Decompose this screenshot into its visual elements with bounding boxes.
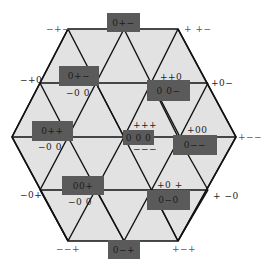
state-box-right: 0−− (173, 135, 217, 155)
state-box-left: 0++ (32, 121, 73, 141)
label-top-right-vertex: + +− (184, 24, 211, 34)
state-box-bottom: 0−+ (108, 240, 140, 259)
state-box-lower-left: 00+ (62, 176, 104, 195)
label-lower-right-above: +0 + (157, 180, 183, 190)
state-box-center: 0 0 0 (123, 130, 154, 145)
label-right-above: +00 (187, 125, 208, 135)
label-upper-left-vertex: −+0 (20, 75, 42, 85)
label-upper-left-below: −0 0 (66, 88, 90, 98)
label-top-left-vertex: −+− (46, 24, 70, 34)
state-box-lower-right: 0−0 (147, 190, 190, 210)
state-box-upper-right: 0 0− (147, 80, 190, 101)
label-lower-left-vertex: −0+ (20, 190, 42, 200)
state-box-top: 0+− (107, 13, 140, 32)
state-box-upper-left: 0+− (59, 66, 99, 86)
label-lower-right-vertex: + −0 (213, 191, 239, 201)
label-lower-left-below: −0 0 (68, 197, 92, 207)
label-left-below: −0 0 (38, 142, 62, 152)
label-center-below: −−− (133, 144, 157, 154)
label-right-vertex: +−− (238, 132, 262, 142)
label-upper-right-vertex: +0− (211, 78, 233, 88)
label-bottom-left-vertex: −−+ (56, 244, 80, 254)
label-center-above: +++ (133, 120, 157, 130)
label-bottom-right-vertex: +−+ (172, 244, 196, 254)
